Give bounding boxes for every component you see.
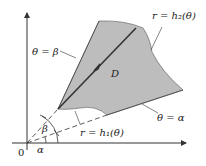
label-outer-curve: r = h₂(θ) [152, 10, 196, 21]
beta-tick-bottom [54, 130, 59, 136]
beta-tick-top [40, 115, 46, 118]
label-theta-beta: θ = β [32, 46, 59, 57]
label-inner-curve: r = h₁(θ) [80, 127, 124, 138]
label-angle-beta: β [41, 123, 48, 134]
label-region-d: D [110, 68, 119, 79]
label-theta-alpha: θ = α [157, 112, 185, 123]
leader-h2 [151, 27, 162, 50]
angle-arc-alpha [45, 137, 46, 143]
label-origin: 0 [18, 147, 24, 158]
leader-beta [60, 51, 76, 58]
polar-region-diagram: 0 D θ = β θ = α r = h₂(θ) r = h₁(θ) β α [0, 0, 206, 166]
leader-h1 [75, 111, 80, 124]
label-angle-alpha: α [37, 144, 44, 155]
leader-alpha [142, 104, 158, 113]
